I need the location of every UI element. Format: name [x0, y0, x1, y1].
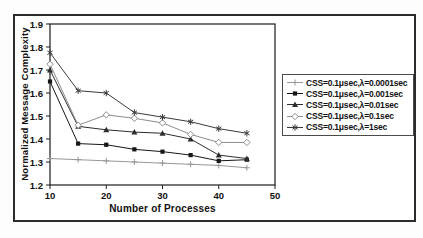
y-tick-label: 1.9 — [30, 19, 43, 30]
diamond-open-marker-icon — [47, 61, 53, 67]
legend-label: CSS=0.1μsec,λ=1sec — [306, 122, 387, 132]
y-tick-label: 1.2 — [30, 180, 43, 191]
diamond-open-marker-icon — [103, 112, 109, 118]
diamond-open-marker-icon — [131, 115, 137, 121]
square-marker-icon — [217, 159, 221, 163]
legend-item: CSS=0.1μsec,λ=0.001sec — [286, 88, 411, 99]
y-tick-label: 1.8 — [30, 42, 43, 53]
series-2 — [47, 67, 250, 161]
legend-item: CSS=0.1μsec,λ=0.1sec — [286, 111, 411, 122]
diamond-open-marker-icon — [159, 120, 165, 126]
square-marker-icon — [286, 89, 304, 98]
series-line — [50, 64, 247, 142]
plus-marker-icon — [292, 80, 298, 86]
x-tick-label: 40 — [213, 190, 224, 201]
square-marker-icon — [104, 143, 108, 147]
diamond-open-marker-icon — [216, 139, 222, 145]
y-tick-label: 1.5 — [30, 111, 44, 122]
legend: CSS=0.1μsec,λ=0.0001secCSS=0.1μsec,λ=0.0… — [282, 74, 414, 136]
diamond-open-marker-icon — [187, 131, 193, 137]
plus-marker-icon — [216, 162, 222, 168]
y-tick-label: 1.6 — [30, 88, 43, 99]
legend-label: CSS=0.1μsec,λ=0.1sec — [306, 111, 394, 121]
x-tick-label: 20 — [101, 190, 112, 201]
plus-marker-icon — [47, 156, 53, 162]
square-marker-icon — [76, 142, 80, 146]
series-line — [50, 53, 247, 134]
diamond-open-marker-icon — [244, 139, 250, 145]
diamond-open-marker-icon — [286, 112, 304, 121]
legend-label: CSS=0.1μsec,λ=0.0001sec — [306, 78, 407, 88]
square-marker-icon — [293, 92, 297, 96]
plus-marker-icon — [286, 78, 304, 87]
y-tick-label: 1.3 — [30, 157, 43, 168]
square-marker-icon — [189, 153, 193, 157]
plus-marker-icon — [131, 159, 137, 165]
legend-item: CSS=0.1μsec,λ=1sec — [286, 122, 411, 133]
plus-marker-icon — [160, 160, 166, 166]
plus-marker-icon — [244, 165, 250, 171]
square-marker-icon — [160, 150, 164, 154]
square-marker-icon — [48, 79, 52, 83]
plus-marker-icon — [103, 158, 109, 164]
y-tick-label: 1.4 — [30, 134, 44, 145]
triangle-marker-icon — [286, 100, 304, 109]
x-tick-label: 30 — [157, 190, 168, 201]
legend-label: CSS=0.1μsec,λ=0.01sec — [306, 100, 398, 110]
legend-item: CSS=0.1μsec,λ=0.01sec — [286, 99, 411, 110]
series-line — [50, 82, 247, 161]
star-marker-icon — [286, 123, 304, 132]
x-axis-title: Number of Processes — [50, 203, 275, 214]
square-marker-icon — [132, 147, 136, 151]
y-axis-title: Normalized Message Complexity — [19, 27, 30, 181]
x-tick-label: 10 — [45, 190, 56, 201]
x-tick-label: 50 — [270, 190, 281, 201]
legend-label: CSS=0.1μsec,λ=0.001sec — [306, 89, 403, 99]
diamond-open-marker-icon — [292, 113, 298, 119]
y-tick-label: 1.7 — [30, 65, 43, 76]
plus-marker-icon — [75, 157, 81, 163]
plus-marker-icon — [188, 161, 194, 167]
triangle-marker-icon — [216, 152, 222, 157]
legend-item: CSS=0.1μsec,λ=0.0001sec — [286, 77, 411, 88]
series-0 — [47, 156, 250, 171]
